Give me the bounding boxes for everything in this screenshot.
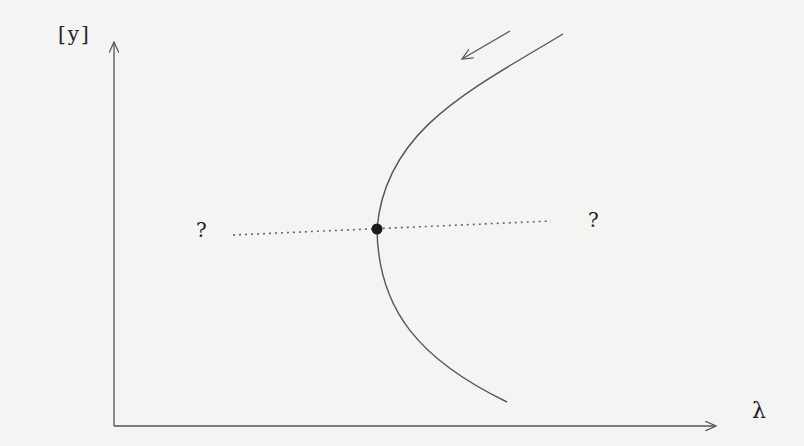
dotted-line — [233, 221, 551, 235]
bifurcation-curve — [377, 34, 563, 402]
fold-point-dot — [372, 224, 383, 235]
diagram-canvas — [0, 0, 804, 446]
x-axis-label: λ — [752, 398, 766, 423]
right-question-mark: ? — [588, 208, 599, 232]
left-question-mark: ? — [196, 218, 207, 242]
direction-arrow — [462, 31, 510, 59]
y-axis-label: [y] — [58, 22, 91, 46]
